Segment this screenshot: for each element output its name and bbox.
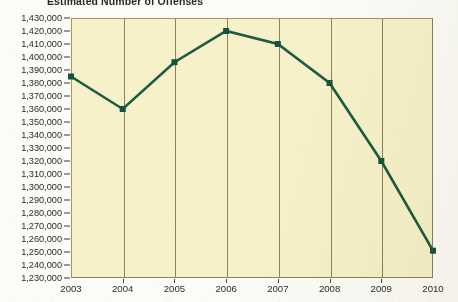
y-axis-tick-mark xyxy=(64,57,70,58)
x-axis-tick-label: 2006 xyxy=(215,283,236,294)
data-point-marker xyxy=(171,59,177,65)
y-axis-tick-mark xyxy=(64,148,70,149)
y-axis-tick-mark xyxy=(64,239,70,240)
y-axis-tick-mark xyxy=(64,83,70,84)
y-axis-tick-mark xyxy=(64,187,70,188)
page-title: Estimated Number of Offenses xyxy=(47,0,203,7)
y-axis-tick-mark xyxy=(64,226,70,227)
data-point-marker xyxy=(275,41,281,47)
x-axis-labels: 20032004200520062007200820092010 xyxy=(71,283,433,299)
y-axis-tick-mark xyxy=(64,200,70,201)
y-axis-tick-mark xyxy=(64,44,70,45)
x-axis-tick-label: 2004 xyxy=(112,283,133,294)
y-axis-tick-mark xyxy=(64,96,70,97)
y-axis-tick-mark xyxy=(64,122,70,123)
y-axis-tick-mark xyxy=(64,70,70,71)
data-point-marker xyxy=(327,80,333,86)
y-axis-tick-mark xyxy=(64,252,70,253)
y-axis-tick-mark xyxy=(64,213,70,214)
y-axis-tick-mark xyxy=(64,265,70,266)
data-point-marker xyxy=(68,74,74,80)
x-axis-tick-label: 2008 xyxy=(319,283,340,294)
data-point-marker xyxy=(223,28,229,34)
y-axis-tick-mark xyxy=(64,135,70,136)
x-axis-tick-mark xyxy=(123,279,124,283)
y-axis-tick-mark xyxy=(64,174,70,175)
y-axis-tick-mark xyxy=(64,31,70,32)
x-axis-tick-label: 2005 xyxy=(164,283,185,294)
x-axis-tick-label: 2003 xyxy=(60,283,81,294)
x-axis-tick-mark xyxy=(381,279,382,283)
x-axis-tick-label: 2007 xyxy=(267,283,288,294)
x-axis-tick-mark xyxy=(330,279,331,283)
x-axis-tick-label: 2009 xyxy=(371,283,392,294)
series-offenses xyxy=(71,18,433,278)
chart-title-clip: Estimated Number of Offenses xyxy=(0,0,240,8)
chart-page: Estimated Number of Offenses 1,430,0001,… xyxy=(0,0,458,302)
data-point-marker xyxy=(120,106,126,112)
series-line xyxy=(71,31,433,251)
x-axis-tick-label: 2010 xyxy=(422,283,443,294)
x-axis-tick-mark xyxy=(174,279,175,283)
x-axis-tick-mark xyxy=(226,279,227,283)
y-axis-ticks xyxy=(0,18,71,278)
y-axis-tick-mark xyxy=(64,18,70,19)
series-markers xyxy=(68,28,436,254)
data-point-marker xyxy=(378,158,384,164)
y-axis-tick-mark xyxy=(64,278,70,279)
y-axis-tick-mark xyxy=(64,109,70,110)
x-axis-tick-mark xyxy=(278,279,279,283)
data-point-marker xyxy=(430,248,436,254)
y-axis-tick-mark xyxy=(64,161,70,162)
